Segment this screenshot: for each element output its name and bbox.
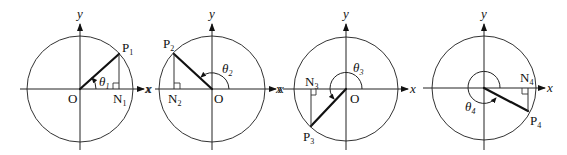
- angle-arc: [92, 78, 96, 89]
- foot-label: N3: [305, 74, 318, 91]
- angle-label: θ1: [99, 74, 109, 91]
- right-angle-mark: [174, 83, 180, 89]
- panel-3: y x x O P3 N3 θ3: [275, 6, 416, 150]
- x-label: x: [409, 81, 416, 96]
- origin-label: O: [214, 91, 223, 106]
- point-label: P2: [163, 36, 174, 53]
- radius-OP: [484, 88, 528, 111]
- point-label: P3: [303, 129, 314, 146]
- neg-x-label: x: [145, 81, 152, 96]
- angle-label: θ3: [353, 60, 363, 77]
- y-label: y: [479, 6, 487, 21]
- foot-label: N2: [168, 91, 181, 108]
- x-label: x: [546, 80, 553, 95]
- neg-x-label: x: [275, 81, 282, 96]
- unit-circle-figure: y x O P1 N1 θ1 y x x O P2 N2 θ2 y x x O …: [0, 0, 567, 155]
- right-angle-mark: [522, 88, 528, 94]
- angle-label: θ2: [222, 61, 232, 78]
- y-label: y: [75, 6, 83, 21]
- y-label: y: [341, 6, 349, 21]
- right-angle-mark: [113, 83, 119, 89]
- point-label: P4: [530, 113, 541, 130]
- panel-2: y x x O P2 N2 θ2: [145, 6, 284, 150]
- panel-1: y x O P1 N1 θ1: [20, 6, 151, 150]
- point-label: P1: [122, 40, 133, 57]
- angle-label: θ4: [465, 99, 475, 116]
- panel-4: y x N4 P4 θ4: [423, 6, 553, 150]
- foot-label: N1: [113, 91, 126, 108]
- origin-label: O: [68, 91, 77, 106]
- origin-label: O: [350, 91, 359, 106]
- foot-label: N4: [520, 70, 533, 87]
- y-label: y: [207, 6, 215, 21]
